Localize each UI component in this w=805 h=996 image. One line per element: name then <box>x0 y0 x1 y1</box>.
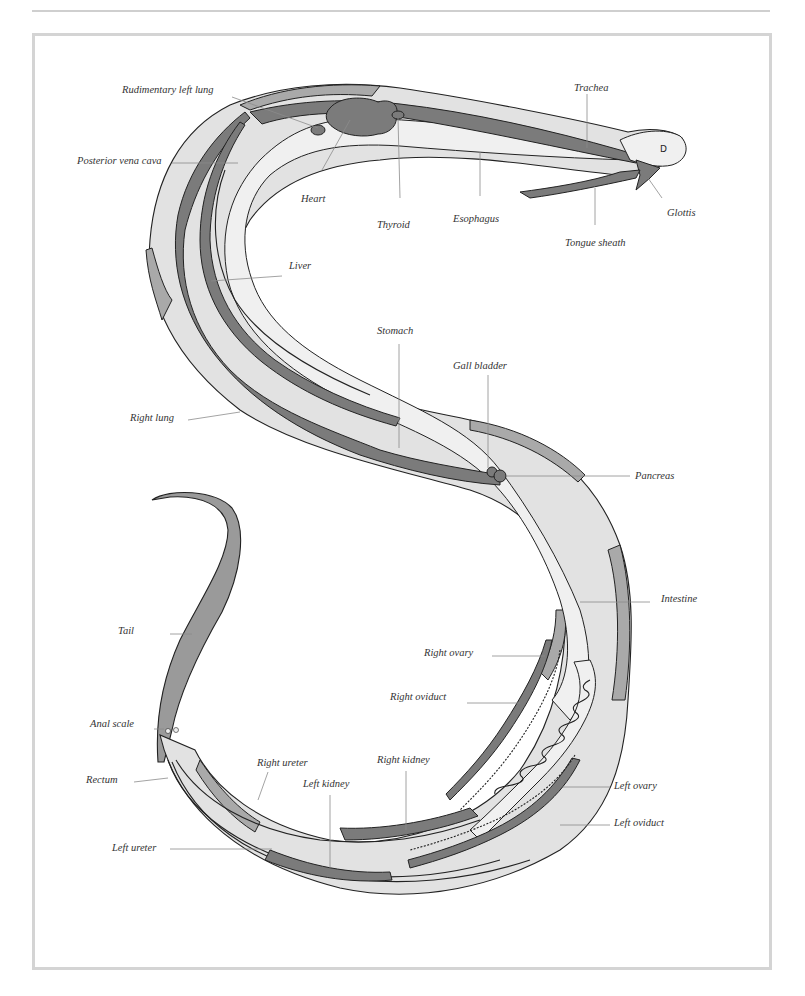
snake-anatomy-diagram: D <box>0 0 805 996</box>
eye-mark: D <box>660 144 667 154</box>
tongue-sheath-shape <box>520 170 640 198</box>
label-left-oviduct: Left oviduct <box>613 817 665 828</box>
tail-shape <box>152 492 241 762</box>
label-anal-scale: Anal scale <box>89 718 134 729</box>
pancreas-shape <box>494 470 506 482</box>
heart-shape <box>326 98 397 136</box>
label-right-kidney: Right kidney <box>376 754 430 765</box>
label-left-kidney: Left kidney <box>302 778 350 789</box>
label-left-ovary: Left ovary <box>613 780 657 791</box>
label-right-lung: Right lung <box>129 412 174 423</box>
anal-scale-mark <box>174 728 179 733</box>
label-right-ureter: Right ureter <box>256 757 309 768</box>
label-gall-bladder: Gall bladder <box>453 360 508 371</box>
label-tongue-sheath: Tongue sheath <box>565 237 626 248</box>
label-stomach: Stomach <box>377 325 413 336</box>
body-outline <box>149 84 684 894</box>
label-thyroid: Thyroid <box>377 219 411 230</box>
label-intestine: Intestine <box>660 593 697 604</box>
label-tail: Tail <box>118 625 134 636</box>
label-heart: Heart <box>300 193 327 204</box>
anal-scale-mark <box>166 729 171 734</box>
label-rectum: Rectum <box>85 774 118 785</box>
label-trachea: Trachea <box>574 82 608 93</box>
label-right-ovary: Right ovary <box>423 647 474 658</box>
label-posterior-vena-cava: Posterior vena cava <box>76 155 162 166</box>
label-rudimentary-left-lung: Rudimentary left lung <box>121 84 214 95</box>
label-left-ureter: Left ureter <box>111 842 157 853</box>
label-right-oviduct: Right oviduct <box>389 691 447 702</box>
label-liver: Liver <box>288 260 312 271</box>
label-pancreas: Pancreas <box>634 470 674 481</box>
label-glottis: Glottis <box>667 207 696 218</box>
label-esophagus: Esophagus <box>452 213 499 224</box>
thyroid-shape <box>392 111 404 119</box>
